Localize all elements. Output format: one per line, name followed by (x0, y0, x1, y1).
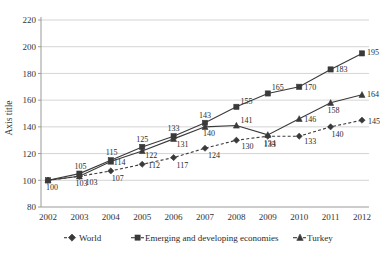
y-tick-label-140: 140 (23, 122, 37, 132)
data-label-0-2005: 112 (148, 161, 160, 170)
data-label-2-2003: 103 (85, 178, 97, 187)
series-marker-2-2012 (359, 92, 365, 98)
series-marker-1-2010 (297, 84, 302, 89)
data-label-0-2012: 145 (368, 117, 380, 126)
x-tick-label-2004: 2004 (102, 212, 121, 222)
legend-label-diamond: World (79, 233, 102, 243)
data-label-2-2005: 122 (145, 151, 157, 160)
x-tick-label-2008: 2008 (227, 212, 246, 222)
series-marker-2-2010 (296, 116, 302, 122)
data-label-2-2012: 164 (367, 90, 379, 99)
y-axis-title: Axis title (4, 100, 14, 135)
y-tick-label-180: 180 (23, 69, 37, 79)
data-label-1-2011: 183 (336, 65, 348, 74)
data-label-0-2011: 140 (332, 130, 344, 139)
data-label-1-2006: 133 (168, 124, 180, 133)
x-tick-label-2006: 2006 (165, 212, 184, 222)
legend-marker-triangle (297, 234, 303, 240)
data-label-0-2008: 130 (241, 142, 253, 151)
data-label-1-2012: 195 (367, 48, 379, 57)
series-marker-0-2008 (233, 137, 239, 143)
series-marker-1-2008 (234, 104, 239, 109)
data-label-2-2010: 146 (304, 115, 316, 124)
x-tick-label-2005: 2005 (133, 212, 152, 222)
chart-canvas: 80100120140160180200220Axis title2002200… (0, 0, 380, 257)
y-tick-label-100: 100 (23, 176, 37, 186)
x-tick-label-2012: 2012 (353, 212, 371, 222)
data-label-0-2007: 124 (208, 151, 220, 160)
y-tick-label-80: 80 (27, 202, 37, 212)
data-label-2-2006: 131 (177, 140, 189, 149)
series-marker-0-2010 (296, 133, 302, 139)
series-marker-1-2011 (328, 67, 333, 72)
legend-marker-square (135, 235, 140, 240)
x-tick-label-2011: 2011 (322, 212, 340, 222)
data-label-0-2010: 133 (304, 137, 316, 146)
y-tick-label-220: 220 (23, 15, 37, 25)
legend-marker-diamond (68, 234, 75, 241)
data-label-0-2004: 107 (112, 174, 124, 183)
y-tick-label-200: 200 (23, 42, 37, 52)
y-tick-label-160: 160 (23, 95, 37, 105)
x-tick-label-2002: 2002 (39, 212, 57, 222)
data-label-1-2005: 125 (136, 135, 148, 144)
data-label-2-2011: 158 (328, 106, 340, 115)
x-tick-label-2009: 2009 (259, 212, 278, 222)
series-marker-1-2012 (359, 51, 364, 56)
legend-label-triangle: Turkey (307, 233, 333, 243)
y-tick-label-120: 120 (23, 149, 37, 159)
data-label-1-2004: 115 (106, 148, 118, 157)
x-tick-label-2010: 2010 (290, 212, 309, 222)
line-chart: 80100120140160180200220Axis title2002200… (0, 0, 380, 257)
legend-label-square: Emerging and developing economies (145, 233, 279, 243)
data-label-2-2008: 141 (240, 116, 252, 125)
series-marker-0-2005 (139, 161, 145, 167)
data-label-2-2004: 114 (114, 158, 126, 167)
data-label-1-2008: 155 (240, 97, 252, 106)
data-label-0-2006: 117 (177, 161, 189, 170)
data-label-0-2002: 100 (46, 183, 58, 192)
data-label-1-2003: 105 (74, 162, 86, 171)
data-label-1-2010: 170 (304, 83, 316, 92)
series-marker-1-2009 (265, 91, 270, 96)
data-label-1-2009: 165 (272, 83, 284, 92)
data-label-2-2007: 140 (203, 129, 215, 138)
x-tick-label-2007: 2007 (196, 212, 215, 222)
series-marker-0-2012 (359, 117, 365, 123)
x-tick-label-2003: 2003 (70, 212, 89, 222)
data-label-1-2007: 143 (199, 111, 211, 120)
data-label-2-2009: 134 (264, 139, 276, 148)
